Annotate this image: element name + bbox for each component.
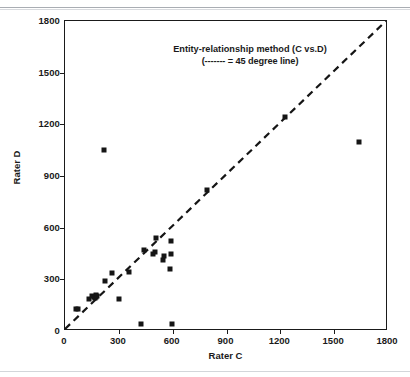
- data-point: [204, 187, 209, 192]
- data-point: [168, 239, 173, 244]
- data-point: [357, 139, 362, 144]
- x-axis-tick: [227, 329, 228, 334]
- y-axis-tick-label: 1500: [38, 66, 60, 77]
- x-axis-tick: [280, 329, 281, 334]
- y-axis-tick: [60, 176, 65, 177]
- chart-annotation: Entity-relationship method (C vs.D) (---…: [145, 43, 355, 67]
- data-point: [152, 249, 157, 254]
- data-point: [282, 114, 287, 119]
- data-point: [153, 236, 158, 241]
- scatter-plot-figure: Rater D 0300600900120015001800 Entity-re…: [0, 12, 410, 368]
- x-axis-tick-label: 300: [110, 335, 126, 346]
- data-point: [95, 293, 100, 298]
- data-point: [126, 269, 131, 274]
- data-point: [141, 248, 146, 253]
- y-axis-tick-label: 600: [44, 221, 60, 232]
- y-axis-tick-label: 300: [44, 273, 60, 284]
- x-axis-tick: [173, 329, 174, 334]
- x-axis-tick-label: 0: [61, 335, 66, 346]
- top-divider-line: [0, 7, 410, 8]
- x-axis-tick-label: 900: [218, 335, 234, 346]
- y-axis-tick-label: 900: [44, 170, 60, 181]
- y-axis-tick: [60, 124, 65, 125]
- y-axis-tick-label: 0: [55, 325, 60, 336]
- x-axis-tick-label: 600: [164, 335, 180, 346]
- y-axis-tick: [60, 73, 65, 74]
- data-point: [101, 148, 106, 153]
- y-axis-tick-label: 1200: [38, 118, 60, 129]
- x-axis-tick-labels: 0300600900120015001800: [64, 335, 387, 349]
- x-axis-tick-label: 1800: [376, 335, 397, 346]
- data-point: [169, 322, 174, 327]
- data-point: [168, 251, 173, 256]
- annotation-title: Entity-relationship method (C vs.D): [145, 43, 355, 55]
- top-divider-shadow: [0, 9, 410, 10]
- data-points-layer: [65, 21, 386, 329]
- data-point: [139, 322, 144, 327]
- x-axis-tick: [334, 329, 335, 334]
- y-axis-tick: [60, 228, 65, 229]
- data-point: [109, 271, 114, 276]
- y-axis-title: Rater D: [11, 138, 22, 198]
- data-point: [103, 279, 108, 284]
- x-axis-title: Rater C: [64, 350, 387, 361]
- y-axis-tick-label: 1800: [38, 15, 60, 26]
- data-point: [76, 306, 81, 311]
- data-point: [167, 267, 172, 272]
- annotation-subtitle: (------- = 45 degree line): [145, 55, 355, 67]
- data-point: [161, 254, 166, 259]
- y-axis-tick-labels: 0300600900120015001800: [28, 20, 60, 330]
- x-axis-tick: [119, 329, 120, 334]
- bottom-divider-line: [0, 371, 410, 372]
- plot-area: Entity-relationship method (C vs.D) (---…: [64, 20, 387, 330]
- x-axis-tick-label: 1500: [323, 335, 344, 346]
- x-axis-tick-label: 1200: [269, 335, 290, 346]
- data-point: [116, 297, 121, 302]
- y-axis-tick: [60, 279, 65, 280]
